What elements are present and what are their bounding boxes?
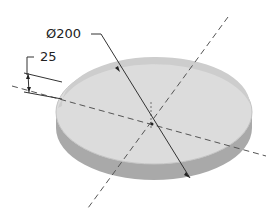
thickness-leader	[27, 57, 34, 75]
disc-drawing: Ø200 25	[0, 0, 279, 216]
thickness-ext-line-bottom	[24, 92, 62, 99]
cropped-caption	[0, 209, 279, 216]
thickness-arrow-bottom	[27, 87, 31, 92]
thickness-ext-line-top	[24, 73, 62, 82]
diameter-label: Ø200	[46, 26, 81, 41]
thickness-label: 25	[40, 49, 57, 64]
center-point	[151, 123, 154, 126]
